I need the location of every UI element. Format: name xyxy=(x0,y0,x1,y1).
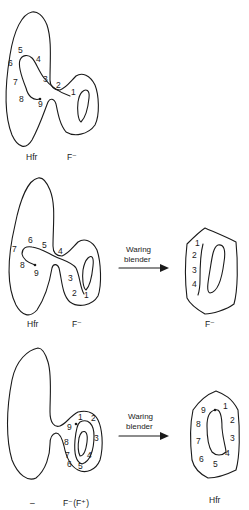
svg-text:1: 1 xyxy=(84,290,89,300)
result-marker-labels: 1 2 3 4 xyxy=(192,238,200,289)
chromosome-origin-dot xyxy=(214,409,217,412)
arrow-head-icon xyxy=(160,264,169,272)
panel-3: 1 2 3 4 5 6 7 8 9 – F⁻(F⁺) Waring blende… xyxy=(8,348,240,508)
donor-label: – xyxy=(30,498,35,508)
svg-text:5: 5 xyxy=(213,459,218,469)
recipient-label: F⁻(F⁺) xyxy=(63,498,89,508)
f-minus-label: F⁻ xyxy=(72,319,82,329)
svg-text:3: 3 xyxy=(43,74,48,84)
svg-text:9: 9 xyxy=(201,405,206,415)
svg-text:8: 8 xyxy=(20,260,25,270)
svg-text:8: 8 xyxy=(196,419,201,429)
chromosome-origin-dot xyxy=(75,423,78,426)
chromosome-origin-dot xyxy=(34,264,37,267)
svg-text:9: 9 xyxy=(34,268,39,278)
svg-text:7: 7 xyxy=(12,244,17,254)
hfr-label: Hfr xyxy=(27,319,39,329)
svg-text:9: 9 xyxy=(67,422,72,432)
arrow-label-line1: Waring xyxy=(128,412,153,421)
panel-2: 1 2 3 4 5 6 7 8 9 Hfr F⁻ Waring blender … xyxy=(9,178,237,329)
svg-text:1: 1 xyxy=(71,87,76,97)
hfr-cell-outline xyxy=(6,12,98,146)
svg-text:6: 6 xyxy=(67,459,72,469)
arrow-label-line2: blender xyxy=(124,255,151,264)
svg-text:8: 8 xyxy=(64,437,69,447)
arrow-head-icon xyxy=(160,432,169,440)
arrow-label-line1: Waring xyxy=(126,245,151,254)
svg-text:5: 5 xyxy=(42,240,47,250)
svg-text:1: 1 xyxy=(78,412,83,422)
marker-labels: 1 2 3 4 5 6 7 8 9 xyxy=(8,45,76,109)
hfr-label: Hfr xyxy=(26,152,38,162)
svg-text:2: 2 xyxy=(91,413,96,423)
result-marker-labels: 1 2 3 4 5 6 7 8 9 xyxy=(196,401,235,469)
conjugation-diagram: 1 2 3 4 5 6 7 8 9 Hfr F⁻ 1 2 3 4 5 6 7 8… xyxy=(0,0,249,510)
svg-text:1: 1 xyxy=(195,238,200,248)
marker-labels: 1 2 3 4 5 6 7 8 9 xyxy=(64,412,99,471)
svg-text:6: 6 xyxy=(28,235,33,245)
recipient-inner-loop xyxy=(78,431,87,456)
svg-text:4: 4 xyxy=(58,246,63,256)
f-minus-label: F⁻ xyxy=(67,152,77,162)
svg-text:5: 5 xyxy=(18,45,23,55)
f-minus-chromosome xyxy=(78,90,90,122)
marker-labels: 1 2 3 4 5 6 7 8 9 xyxy=(12,235,89,300)
result-label: F⁻ xyxy=(205,319,215,329)
svg-text:4: 4 xyxy=(192,279,197,289)
svg-text:4: 4 xyxy=(87,450,92,460)
svg-text:3: 3 xyxy=(192,265,197,275)
panel-1: 1 2 3 4 5 6 7 8 9 Hfr F⁻ xyxy=(6,12,98,162)
result-label: Hfr xyxy=(209,495,221,505)
svg-text:7: 7 xyxy=(65,450,70,460)
svg-text:2: 2 xyxy=(192,250,197,260)
f-minus-chromosome xyxy=(83,256,94,290)
svg-text:1: 1 xyxy=(223,401,228,411)
svg-text:5: 5 xyxy=(78,461,83,471)
integrated-strand xyxy=(198,244,203,295)
svg-text:2: 2 xyxy=(230,415,235,425)
svg-text:9: 9 xyxy=(38,99,43,109)
svg-text:7: 7 xyxy=(196,436,201,446)
svg-text:4: 4 xyxy=(225,448,230,458)
svg-text:7: 7 xyxy=(13,77,18,87)
svg-text:2: 2 xyxy=(56,80,61,90)
svg-text:8: 8 xyxy=(19,94,24,104)
svg-text:4: 4 xyxy=(36,54,41,64)
result-chromosome xyxy=(207,410,226,455)
svg-text:3: 3 xyxy=(230,433,235,443)
svg-text:3: 3 xyxy=(68,273,73,283)
svg-text:2: 2 xyxy=(72,288,77,298)
svg-text:6: 6 xyxy=(199,454,204,464)
hfr-chromosome-strand xyxy=(22,247,84,294)
result-chromosome xyxy=(208,245,225,293)
svg-text:6: 6 xyxy=(8,58,13,68)
svg-text:3: 3 xyxy=(94,433,99,443)
arrow-label-line2: blender xyxy=(126,422,153,431)
